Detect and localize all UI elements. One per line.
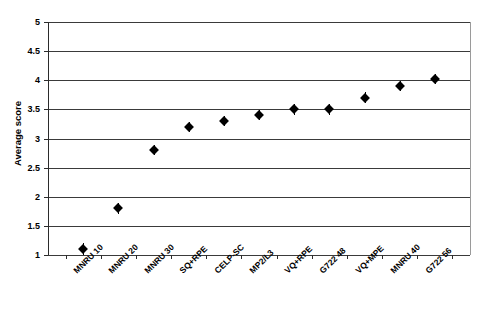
y-axis-line [48,22,49,255]
y-tick-label: 2 [12,193,40,202]
x-tick-mark [452,255,453,259]
data-point [360,93,370,103]
x-tick-mark [347,255,348,259]
x-tick-mark [66,255,67,259]
x-tick-mark [382,255,383,259]
x-tick-mark [206,255,207,259]
gridline [48,168,470,169]
x-tick-label: VQ+RPE [283,244,315,276]
x-tick-label: MP2/L3 [247,247,275,275]
data-point [324,104,334,114]
x-tick-mark [277,255,278,259]
x-tick-label: VQ+MPE [353,243,385,275]
data-point [149,145,159,155]
data-point [184,122,194,132]
x-tick-mark [171,255,172,259]
gridline [48,139,470,140]
gridline [48,197,470,198]
y-tick-mark [44,255,48,256]
y-tick-label: 4.5 [12,47,40,56]
y-tick-label: 5 [12,18,40,27]
y-tick-label: 1 [12,251,40,260]
data-point [254,110,264,120]
gridline [48,22,470,23]
gridline [48,51,470,52]
average-score-chart: Average score 54.543.532.521.51 MNRU 10M… [0,0,498,316]
x-tick-mark [101,255,102,259]
x-tick-mark [241,255,242,259]
gridline [48,226,470,227]
x-tick-label: G722 48 [318,245,348,275]
y-tick-label: 3.5 [12,105,40,114]
y-tick-label: 3 [12,135,40,144]
data-point [113,203,123,213]
x-tick-mark [312,255,313,259]
data-point [289,104,299,114]
data-point [430,74,440,84]
x-tick-label: SQ+RPE [177,244,209,276]
gridline [48,80,470,81]
data-point [219,116,229,126]
x-tick-mark [136,255,137,259]
x-tick-label: G722 56 [423,245,453,275]
data-point [395,81,405,91]
y-tick-label: 1.5 [12,222,40,231]
plot-right-border [470,22,471,255]
x-tick-mark [417,255,418,259]
y-tick-label: 2.5 [12,164,40,173]
y-tick-label: 4 [12,76,40,85]
